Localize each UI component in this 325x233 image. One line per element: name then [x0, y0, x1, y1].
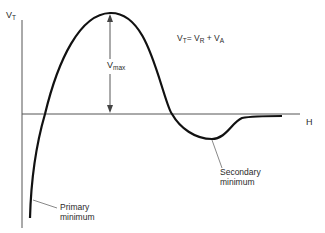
primary-minimum-line1: Primary [60, 202, 94, 212]
equation-label: VT= VR + VA [177, 33, 224, 46]
eq-plus: + [207, 33, 212, 43]
primary-minimum-line2: minimum [60, 212, 94, 222]
y-axis-label-sub: T [12, 14, 16, 21]
secondary-minimum-line1: Secondary [220, 167, 261, 177]
primary-minimum-label: Primary minimum [60, 202, 94, 222]
secondary-minimum-label: Secondary minimum [220, 167, 261, 187]
secondary-minimum-leader [212, 140, 222, 168]
potential-curve [30, 13, 282, 218]
secondary-minimum-line2: minimum [220, 177, 261, 187]
y-axis-label: VT [6, 10, 16, 23]
eq-term1-sub: R [200, 37, 205, 44]
arrow-head-up-icon [107, 14, 113, 22]
arrow-head-down-icon [107, 105, 113, 113]
eq-term2-sub: A [220, 37, 224, 44]
x-axis-label: H [306, 117, 313, 127]
eq-equals: = [187, 33, 192, 43]
primary-minimum-leader [33, 200, 57, 208]
vmax-sub: max [113, 64, 125, 71]
vmax-label: Vmax [107, 59, 125, 74]
diagram-canvas [0, 0, 325, 233]
